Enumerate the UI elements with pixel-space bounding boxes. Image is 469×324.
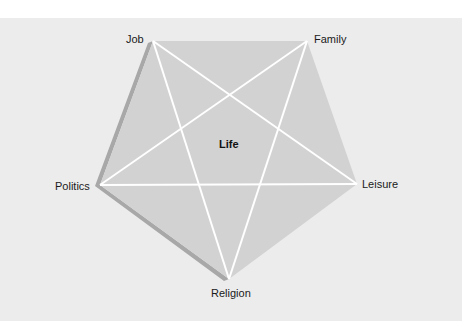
vertex-label-politics: Politics <box>55 180 90 193</box>
vertex-label-leisure: Leisure <box>362 178 398 191</box>
vertex-label-religion: Religion <box>211 287 251 300</box>
vertex-label-job: Job <box>126 33 144 46</box>
vertex-label-family: Family <box>314 33 346 46</box>
pentagram-diagram <box>0 0 469 324</box>
star-line-politics-leisure <box>100 184 357 185</box>
center-label-life: Life <box>219 138 239 151</box>
